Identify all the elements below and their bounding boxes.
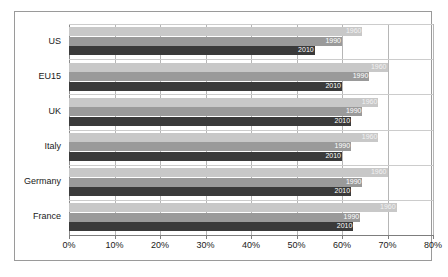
plot-area: 1960199020101960199020101960199020101960… (69, 24, 433, 235)
bar-data-label: 1960 (371, 167, 387, 177)
x-tick-mark-10 (115, 235, 116, 239)
bar-us-2010[interactable]: 2010 (69, 46, 315, 55)
bar-data-label: 1960 (380, 202, 396, 212)
bar-germany-1960[interactable]: 1960 (69, 168, 388, 177)
bar-eu15-2010[interactable]: 2010 (69, 82, 342, 91)
x-tick-label-50: 50% (287, 240, 305, 250)
bar-data-label: 1990 (325, 36, 341, 46)
x-tick-mark-30 (206, 235, 207, 239)
bar-data-label: 1990 (335, 141, 351, 151)
bar-uk-1990[interactable]: 1990 (69, 107, 362, 116)
bar-eu15-1960[interactable]: 1960 (69, 63, 388, 72)
bar-france-1990[interactable]: 1990 (69, 213, 360, 222)
bar-us-1960[interactable]: 1960 (69, 27, 362, 36)
bar-italy-2010[interactable]: 2010 (69, 152, 342, 161)
x-tick-label-30: 30% (196, 240, 214, 250)
bar-germany-2010[interactable]: 2010 (69, 187, 351, 196)
category-label-eu15: EU15 (15, 71, 61, 81)
x-tick-mark-80 (433, 235, 434, 239)
chart-frame: 1960199020101960199020101960199020101960… (14, 11, 432, 261)
category-label-italy: Italy (15, 141, 61, 151)
category-label-france: France (15, 211, 61, 221)
bar-data-label: 2010 (337, 221, 353, 231)
x-tick-label-70: 70% (378, 240, 396, 250)
bar-uk-1960[interactable]: 1960 (69, 98, 378, 107)
category-label-uk: UK (15, 106, 61, 116)
x-tick-mark-60 (342, 235, 343, 239)
bar-data-label: 2010 (325, 81, 341, 91)
x-tick-mark-40 (251, 235, 252, 239)
x-tick-label-40: 40% (242, 240, 260, 250)
bar-data-label: 1990 (344, 212, 360, 222)
bar-france-2010[interactable]: 2010 (69, 222, 353, 231)
x-tick-label-20: 20% (151, 240, 169, 250)
gridline-80 (433, 24, 434, 235)
bar-uk-2010[interactable]: 2010 (69, 117, 351, 126)
x-tick-label-10: 10% (105, 240, 123, 250)
bar-data-label: 1990 (346, 106, 362, 116)
x-tick-label-80: 80% (424, 240, 442, 250)
x-tick-mark-0 (69, 235, 70, 239)
bar-germany-1990[interactable]: 1990 (69, 178, 362, 187)
category-separator (69, 130, 433, 131)
category-separator (69, 200, 433, 201)
category-separator (69, 59, 433, 60)
bar-data-label: 1960 (346, 26, 362, 36)
bar-data-label: 1960 (362, 97, 378, 107)
category-separator (69, 165, 433, 166)
category-label-us: US (15, 36, 61, 46)
bar-data-label: 2010 (335, 186, 351, 196)
x-tick-mark-20 (160, 235, 161, 239)
bar-eu15-1990[interactable]: 1990 (69, 72, 369, 81)
x-tick-label-60: 60% (333, 240, 351, 250)
category-separator (69, 24, 433, 25)
bar-data-label: 1990 (346, 177, 362, 187)
bar-italy-1990[interactable]: 1990 (69, 142, 351, 151)
bar-data-label: 1960 (371, 62, 387, 72)
bar-data-label: 1990 (353, 71, 369, 81)
x-tick-mark-70 (388, 235, 389, 239)
bar-data-label: 2010 (325, 151, 341, 161)
bar-italy-1960[interactable]: 1960 (69, 133, 378, 142)
x-tick-mark-50 (297, 235, 298, 239)
category-label-germany: Germany (15, 176, 61, 186)
bar-data-label: 1960 (362, 132, 378, 142)
x-tick-label-0: 0% (62, 240, 75, 250)
category-separator (69, 94, 433, 95)
bar-data-label: 2010 (298, 45, 314, 55)
bar-data-label: 2010 (335, 116, 351, 126)
